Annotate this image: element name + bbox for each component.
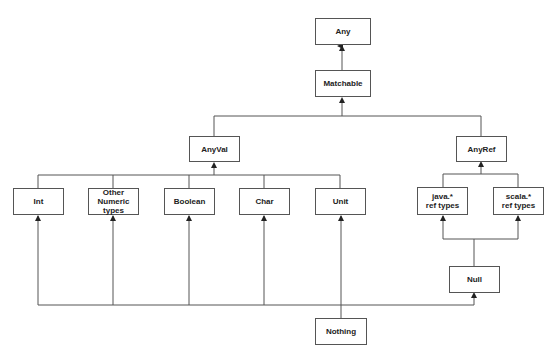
node-null[interactable]: Null (449, 266, 500, 293)
node-label: Char (255, 197, 273, 206)
node-unit[interactable]: Unit (315, 188, 366, 215)
node-label: Matchable (323, 79, 362, 88)
node-label: AnyRef (467, 145, 495, 154)
node-label: Any (335, 27, 350, 36)
node-label: Boolean (174, 197, 206, 206)
node-matchable[interactable]: Matchable (315, 70, 371, 97)
node-anyval[interactable]: AnyVal (189, 136, 240, 162)
node-other-numeric[interactable]: Other Numeric types (88, 188, 139, 215)
node-label: Other Numeric types (97, 188, 129, 215)
node-boolean[interactable]: Boolean (164, 188, 215, 215)
node-java-ref-types[interactable]: java.* ref types (417, 187, 468, 215)
node-any[interactable]: Any (315, 18, 371, 45)
node-nothing[interactable]: Nothing (315, 318, 367, 345)
node-label: java.* ref types (426, 192, 459, 210)
node-char[interactable]: Char (239, 188, 290, 215)
node-label: Null (467, 275, 482, 284)
node-label: Int (34, 197, 44, 206)
hierarchy-edges (0, 0, 557, 358)
node-label: Nothing (326, 327, 356, 336)
node-scala-ref-types[interactable]: scala.* ref types (493, 187, 544, 215)
node-anyref[interactable]: AnyRef (456, 136, 507, 162)
node-label: Unit (333, 197, 349, 206)
node-label: AnyVal (201, 145, 228, 154)
node-label: scala.* ref types (502, 192, 535, 210)
node-int[interactable]: Int (13, 188, 64, 215)
